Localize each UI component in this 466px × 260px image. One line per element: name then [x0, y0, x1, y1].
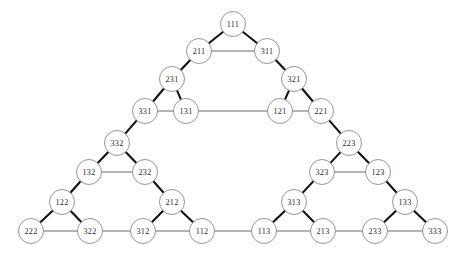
graph-edge [40, 211, 53, 223]
node-label: 131 [180, 107, 193, 116]
graph-node[interactable]: 222 [19, 219, 44, 244]
graph-node[interactable]: 311 [255, 39, 280, 64]
graph-edge [303, 181, 314, 193]
graph-node[interactable]: 132 [77, 160, 102, 185]
graph-node[interactable]: 323 [310, 160, 335, 185]
graph-node[interactable]: 131 [174, 99, 199, 124]
node-label: 121 [274, 107, 287, 116]
graph-edge [126, 152, 137, 163]
graph-edge [125, 120, 137, 133]
graph-node[interactable]: 231 [160, 67, 185, 92]
graph-edge [152, 211, 163, 222]
graph-edge [285, 90, 289, 99]
node-label: 232 [139, 168, 152, 177]
graph-node[interactable]: 333 [423, 219, 448, 244]
node-label: 323 [316, 168, 329, 177]
graph-node[interactable]: 123 [366, 160, 391, 185]
node-label: 313 [288, 198, 301, 207]
graph-node[interactable]: 211 [187, 39, 212, 64]
graph-node[interactable]: 233 [363, 219, 388, 244]
graph-edge [70, 181, 80, 192]
graph-edge [358, 152, 369, 163]
node-layer: 1112113112313311313211212213321322321222… [19, 12, 448, 244]
hanoi-state-graph: 1112113112313311313211212213321322321222… [0, 0, 466, 260]
graph-node[interactable]: 122 [50, 190, 75, 215]
graph-node[interactable]: 213 [311, 219, 336, 244]
node-label: 322 [84, 227, 97, 236]
graph-edge [414, 211, 426, 223]
graph-node[interactable]: 232 [133, 160, 158, 185]
graph-edge [329, 120, 341, 133]
graph-node[interactable]: 113 [252, 219, 277, 244]
node-label: 211 [193, 47, 206, 56]
graph-edge [98, 152, 109, 163]
graph-node[interactable]: 111 [221, 12, 246, 37]
graph-node[interactable]: 321 [282, 67, 307, 92]
node-label: 312 [137, 227, 150, 236]
graph-edge [153, 89, 164, 102]
node-label: 213 [317, 227, 330, 236]
node-label: 132 [83, 168, 96, 177]
graph-edge [384, 211, 396, 223]
node-label: 221 [315, 107, 328, 116]
node-label: 331 [139, 107, 152, 116]
graph-edge [243, 32, 257, 43]
graph-node[interactable]: 112 [190, 219, 215, 244]
graph-edge [153, 181, 163, 192]
graph-node[interactable]: 212 [160, 190, 185, 215]
graph-edge [181, 211, 193, 223]
graph-edge [209, 32, 223, 43]
node-label: 113 [258, 227, 271, 236]
node-label: 332 [111, 139, 124, 148]
node-label: 111 [227, 20, 239, 29]
graph-node[interactable]: 223 [337, 131, 362, 156]
node-label: 123 [372, 168, 385, 177]
node-label: 321 [288, 75, 301, 84]
graph-edge [386, 181, 396, 192]
graph-edge [302, 89, 313, 102]
node-label: 222 [25, 227, 38, 236]
graph-edge [177, 90, 181, 99]
node-label: 133 [399, 198, 412, 207]
graph-edge [181, 60, 191, 70]
edge-layer [40, 32, 426, 231]
graph-node[interactable]: 221 [309, 99, 334, 124]
graph-edge [331, 152, 341, 163]
graph-node[interactable]: 121 [268, 99, 293, 124]
node-label: 212 [166, 198, 179, 207]
graph-edge [276, 60, 286, 70]
node-label: 233 [369, 227, 382, 236]
node-label: 333 [429, 227, 442, 236]
graph-edge [273, 211, 285, 223]
graph-node[interactable]: 322 [78, 219, 103, 244]
graph-container: 1112113112313311313211212213321322321222… [0, 0, 466, 260]
node-label: 311 [261, 47, 274, 56]
node-label: 112 [196, 227, 209, 236]
graph-edge [303, 211, 314, 222]
node-label: 122 [56, 198, 69, 207]
graph-node[interactable]: 313 [282, 190, 307, 215]
graph-node[interactable]: 312 [131, 219, 156, 244]
node-label: 231 [166, 75, 179, 84]
graph-edge [71, 211, 82, 222]
graph-node[interactable]: 133 [393, 190, 418, 215]
graph-node[interactable]: 331 [133, 99, 158, 124]
graph-node[interactable]: 332 [105, 131, 130, 156]
node-label: 223 [343, 139, 356, 148]
